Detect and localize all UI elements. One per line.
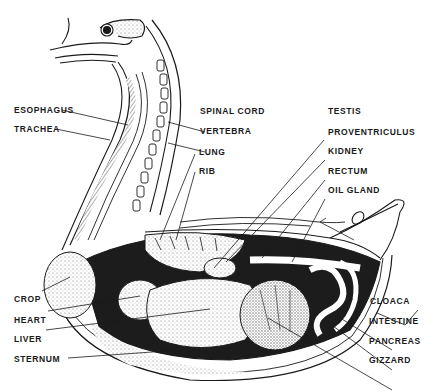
bird-anatomy-diagram: ESOPHAGUS TRACHEA SPINAL CORD VERTEBRA L… [0, 0, 435, 392]
label-crop: CROP [14, 294, 41, 304]
label-heart: HEART [14, 315, 46, 325]
label-trachea: TRACHEA [14, 124, 60, 134]
label-rectum: RECTUM [328, 166, 368, 176]
label-esophagus: ESOPHAGUS [14, 105, 74, 115]
label-vertebra: VERTEBRA [200, 126, 252, 136]
label-kidney: KIDNEY [328, 146, 364, 156]
label-intestine: INTESTINE [369, 316, 419, 326]
label-oil-gland: OIL GLAND [328, 185, 380, 195]
head-and-neck [50, 18, 181, 250]
label-rib: RIB [199, 166, 215, 176]
label-pancreas: PANCREAS [369, 336, 421, 346]
label-spinal-cord: SPINAL CORD [200, 106, 265, 116]
label-sternum: STERNUM [14, 354, 60, 364]
label-proventriculus: PROVENTRICULUS [328, 127, 415, 137]
anatomy-illustration [0, 0, 435, 392]
label-liver: LIVER [14, 334, 42, 344]
label-gizzard: GIZZARD [369, 355, 411, 365]
label-cloaca: CLOACA [370, 296, 410, 306]
label-lung: LUNG [199, 147, 225, 157]
label-testis: TESTIS [328, 106, 361, 116]
